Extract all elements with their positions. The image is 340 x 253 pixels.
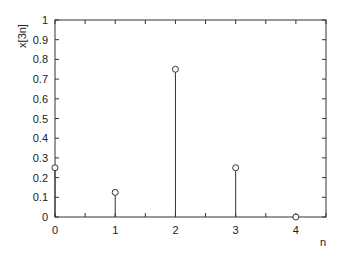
y-tick-label: 1: [42, 14, 48, 26]
y-tick-label: 0.2: [33, 172, 48, 184]
y-axis-label: x[3n]: [16, 24, 28, 48]
x-tick-labels: 01234: [52, 224, 299, 236]
y-tick-label: 0.9: [33, 34, 48, 46]
x-tick-label: 0: [52, 224, 58, 236]
y-tick-labels: 00.10.20.30.40.50.60.70.80.91: [33, 14, 48, 223]
stem-marker: [52, 165, 58, 171]
stem-marker: [112, 189, 118, 195]
y-tick-label: 0.1: [33, 191, 48, 203]
plot-frame: [55, 20, 326, 217]
y-tick-label: 0.5: [33, 113, 48, 125]
y-tick-label: 0.4: [33, 132, 48, 144]
y-tick-label: 0: [42, 211, 48, 223]
axis-ticks: [55, 20, 326, 217]
x-tick-label: 4: [293, 224, 299, 236]
y-tick-label: 0.8: [33, 53, 48, 65]
x-tick-label: 3: [233, 224, 239, 236]
y-tick-label: 0.7: [33, 73, 48, 85]
y-tick-label: 0.3: [33, 152, 48, 164]
stem-marker: [233, 165, 239, 171]
x-axis-label: n: [320, 236, 326, 248]
x-tick-label: 1: [112, 224, 118, 236]
stems: [52, 66, 299, 220]
stem-marker: [293, 214, 299, 220]
x-tick-label: 2: [172, 224, 178, 236]
stem-plot: 00.10.20.30.40.50.60.70.80.91 01234 x[3n…: [0, 0, 340, 253]
y-tick-label: 0.6: [33, 93, 48, 105]
stem-marker: [172, 66, 178, 72]
